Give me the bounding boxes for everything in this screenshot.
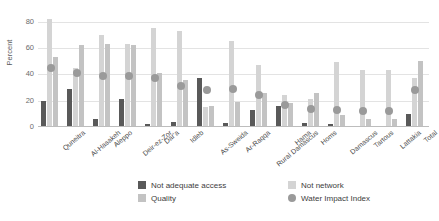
legend-label: Water Impact Index [301, 194, 370, 204]
bar-not-adequate-access [67, 89, 72, 127]
legend-swatch [288, 194, 296, 202]
bar-quality [209, 106, 214, 127]
water-impact-index-marker [333, 106, 341, 114]
bar-groups [38, 11, 429, 127]
water-impact-index-marker [203, 86, 211, 94]
bar-not-network [125, 44, 130, 127]
bar-not-network [360, 70, 365, 127]
bar-not-network [99, 35, 104, 127]
bar-not-network [386, 70, 391, 127]
bar-not-adequate-access [197, 78, 202, 127]
bar-group [171, 11, 194, 127]
bar-quality [79, 45, 84, 127]
water-impact-index-marker [359, 107, 367, 115]
bar-quality [157, 73, 162, 127]
x-axis-tick-label: As-Sweida [219, 129, 249, 156]
bar-group [197, 11, 220, 127]
bar-quality [131, 45, 136, 127]
legend-item[interactable]: Quality [138, 194, 176, 204]
bar-not-network [47, 19, 52, 127]
bar-group [249, 11, 272, 127]
bar-group [223, 11, 246, 127]
water-impact-index-marker [125, 72, 133, 80]
bar-not-network [308, 99, 313, 127]
bar-group [67, 11, 90, 127]
bar-group [41, 11, 64, 127]
bar-group [379, 11, 402, 127]
bar-quality [262, 93, 267, 127]
legend-item[interactable]: Not network [288, 181, 344, 191]
bar-group [405, 11, 428, 127]
bar-quality [418, 61, 423, 127]
legend-swatch [288, 181, 296, 189]
bar-group [353, 11, 376, 127]
y-axis-tick-label: 0 [4, 123, 34, 131]
x-axis-tick-label: Idleb [188, 129, 204, 144]
plot-area [38, 11, 429, 127]
x-axis-tick-label: Lattakia [399, 129, 422, 150]
bar-not-network [203, 107, 208, 127]
x-axis-tick-label: Rural Damascus [275, 129, 319, 168]
water-impact-index-marker [47, 64, 55, 72]
bar-not-adequate-access [119, 99, 124, 127]
water-impact-index-marker [229, 85, 237, 93]
x-axis-tick-label: Quneitra [61, 129, 86, 152]
bar-not-network [334, 62, 339, 127]
bar-group [327, 11, 350, 127]
bar-not-adequate-access [276, 106, 281, 127]
x-axis-tick-label: Total [423, 129, 439, 144]
water-impact-index-marker [385, 107, 393, 115]
water-impact-index-marker [151, 74, 159, 82]
bar-group [275, 11, 298, 127]
water-impact-index-marker [307, 105, 315, 113]
y-axis-tick-label: 20 [4, 97, 34, 105]
bar-group [119, 11, 142, 127]
water-impact-index-marker [73, 69, 81, 77]
bar-not-adequate-access [41, 101, 46, 127]
bar-not-adequate-access [250, 110, 255, 127]
water-impact-index-marker [99, 72, 107, 80]
legend-label: Not adequate access [151, 181, 226, 191]
legend-label: Not network [301, 181, 344, 191]
legend-item[interactable]: Not adequate access [138, 181, 226, 191]
legend-swatch [138, 194, 146, 202]
bar-not-network [177, 31, 182, 127]
legend-swatch [138, 181, 146, 189]
legend-item[interactable]: Water Impact Index [288, 194, 370, 204]
x-axis-tick-label: Homs [319, 129, 338, 146]
bar-group [145, 11, 168, 127]
legend-label: Quality [151, 194, 176, 204]
bar-group [93, 11, 116, 127]
bar-quality [235, 102, 240, 127]
y-axis-title: Percent [5, 23, 14, 83]
x-axis-tick-labels: QuneitraAl-HasakehAleppoDeir-ez-ZorDar'a… [38, 129, 429, 177]
x-axis-baseline [38, 126, 429, 127]
bar-quality [105, 44, 110, 127]
water-impact-index-marker [177, 82, 185, 90]
bar-group [301, 11, 324, 127]
chart-legend: Not adequate accessNot networkQualityWat… [138, 181, 428, 215]
water-impact-index-marker [281, 101, 289, 109]
